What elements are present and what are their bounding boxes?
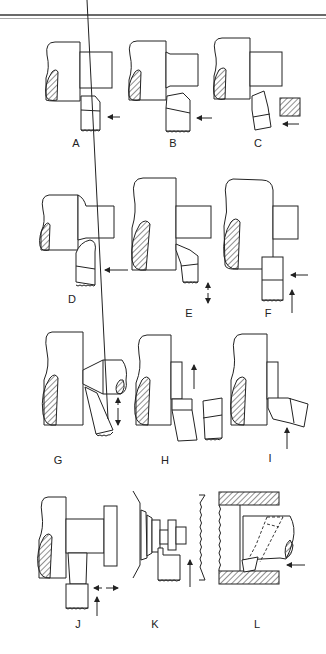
turned-shoulder — [80, 52, 112, 88]
panel-label-f: F — [265, 307, 272, 319]
shaft — [66, 519, 104, 553]
cutting-tool — [81, 96, 100, 130]
step-1 — [147, 515, 152, 556]
turned-stub — [267, 362, 278, 399]
workpiece-section — [40, 223, 50, 251]
panel-label-i: I — [268, 452, 271, 464]
panel-label-k: K — [151, 618, 159, 630]
bore-left-edge — [219, 505, 221, 571]
panel-label-c: C — [254, 137, 262, 149]
bore-wall-top — [219, 492, 279, 505]
panel-label-g: G — [54, 454, 63, 466]
panel-label-d: D — [68, 293, 76, 305]
flange — [104, 506, 117, 566]
panel-j: J — [38, 497, 118, 630]
turned-shoulder — [176, 206, 211, 238]
panel-f: F — [224, 179, 308, 319]
cutting-tool — [176, 244, 198, 282]
cutting-tool — [262, 257, 283, 300]
panel-label-j: J — [75, 618, 81, 630]
cutting-tool — [268, 398, 308, 427]
panel-c: C — [214, 38, 300, 149]
boring-tool-tip — [242, 557, 258, 572]
panel-label-a: A — [72, 137, 80, 149]
cutting-tool — [172, 399, 197, 441]
panel-label-l: L — [254, 618, 260, 630]
tool-holder — [66, 584, 88, 608]
panel-label-b: B — [169, 137, 176, 149]
panel-k: K — [133, 491, 205, 630]
turned-shoulder — [250, 52, 282, 86]
step-2 — [152, 520, 160, 552]
panel-e: E — [132, 178, 211, 319]
form-tool — [158, 548, 180, 580]
end-stub — [176, 527, 186, 544]
step-3 — [168, 520, 176, 550]
panel-d: D — [40, 195, 128, 305]
cutting-tool — [68, 553, 87, 584]
panel-label-h: H — [161, 454, 169, 466]
panel-i: I — [231, 334, 308, 464]
cutting-tool-2 — [203, 398, 222, 439]
tool-shank-section — [280, 98, 300, 116]
turned-stub — [171, 362, 182, 399]
panel-b: B — [129, 41, 212, 149]
bore-wall-bottom — [219, 571, 279, 584]
break-line — [199, 495, 205, 580]
chuck-face — [141, 510, 147, 560]
panel-l: L — [219, 492, 305, 630]
panel-a: A — [46, 42, 120, 149]
lathe-operations-diagram: A B C D — [0, 0, 326, 654]
panel-label-e: E — [185, 307, 192, 319]
panel-h: H — [135, 335, 222, 466]
round-nose-tool — [76, 240, 95, 285]
turned-shoulder — [166, 52, 198, 88]
cutting-tool — [252, 91, 271, 130]
turned-shoulder — [78, 195, 114, 240]
chuck-outline — [133, 491, 140, 578]
turned-shoulder — [273, 206, 298, 239]
